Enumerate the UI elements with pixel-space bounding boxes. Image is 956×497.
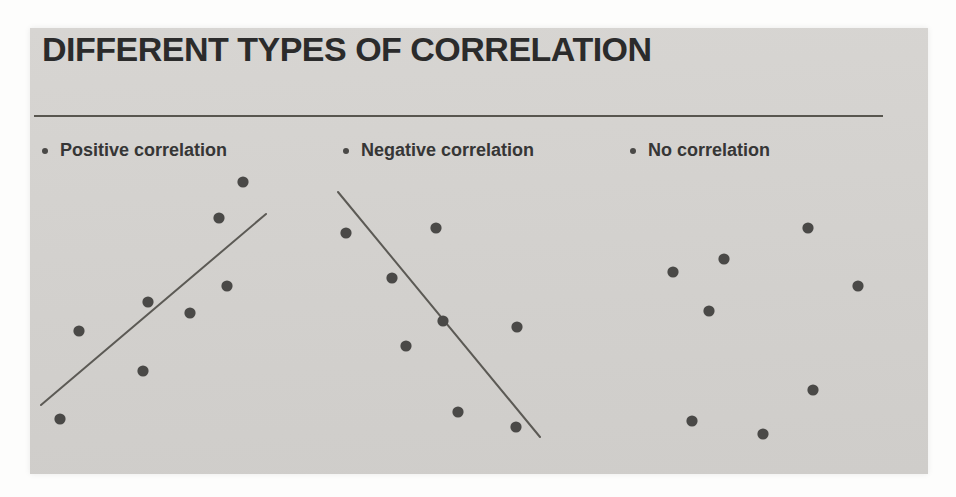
data-point xyxy=(852,280,863,291)
data-point xyxy=(237,176,248,187)
trend-line xyxy=(41,214,266,405)
data-point xyxy=(137,365,148,376)
data-point xyxy=(686,415,697,426)
data-point xyxy=(54,413,65,424)
data-point xyxy=(221,280,232,291)
data-point xyxy=(73,325,84,336)
data-point xyxy=(757,428,768,439)
data-point xyxy=(386,272,397,283)
data-point xyxy=(807,384,818,395)
data-point xyxy=(184,307,195,318)
data-point xyxy=(452,406,463,417)
data-point xyxy=(340,227,351,238)
data-point xyxy=(400,340,411,351)
data-point xyxy=(437,315,448,326)
data-point xyxy=(511,321,522,332)
data-point xyxy=(703,305,714,316)
scatter-plots xyxy=(30,28,928,474)
slide: DIFFERENT TYPES OF CORRELATION Positive … xyxy=(30,28,928,474)
data-point xyxy=(430,222,441,233)
photo-page: DIFFERENT TYPES OF CORRELATION Positive … xyxy=(0,0,956,497)
data-point xyxy=(802,222,813,233)
data-point xyxy=(213,212,224,223)
data-point xyxy=(667,266,678,277)
data-point xyxy=(718,253,729,264)
data-point xyxy=(142,296,153,307)
data-point xyxy=(510,421,521,432)
